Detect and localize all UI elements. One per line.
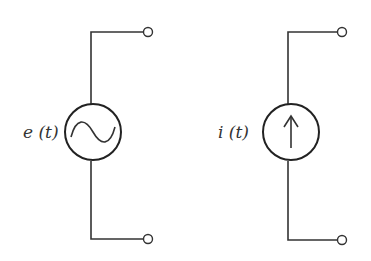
voltage-source-bottom-terminal	[144, 235, 153, 244]
current-source-top-wire	[288, 32, 337, 104]
current-source-top-terminal	[338, 28, 347, 37]
voltage-source-top-wire	[91, 32, 144, 104]
voltage-source-label: e (t)	[23, 122, 59, 142]
voltage-source-top-terminal	[144, 28, 153, 37]
current-source-bottom-wire	[288, 161, 337, 240]
current-source-label: i (t)	[218, 122, 249, 142]
voltage-source-group: e (t)	[23, 28, 153, 244]
circuit-diagram: e (t) i (t)	[0, 0, 371, 261]
voltage-source-bottom-wire	[91, 161, 144, 239]
current-source-group: i (t)	[218, 28, 347, 245]
current-source-bottom-terminal	[338, 236, 347, 245]
